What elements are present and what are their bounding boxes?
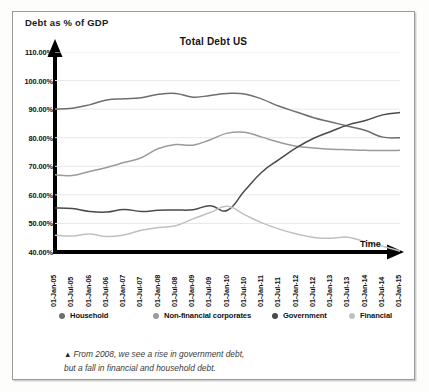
gridlines — [55, 52, 400, 223]
x-tick-label: 01-Jan-09 — [187, 275, 196, 307]
x-tick-label: 01-Jan-10 — [222, 275, 231, 307]
series-line — [55, 113, 400, 213]
x-tick-label: 01-Jul-10 — [239, 277, 248, 307]
x-tick-label: 01-Jul-14 — [377, 277, 386, 307]
plot-area — [55, 52, 400, 252]
x-tick-labels: 01-Jan-0501-Jul-0501-Jan-0601-Jul-0601-J… — [55, 255, 400, 307]
chart-title: Total Debt US — [13, 36, 414, 47]
series-line — [55, 132, 400, 176]
x-tick-label: 01-Jan-08 — [153, 275, 162, 307]
legend-label: Financial — [360, 311, 392, 320]
legend-swatch-icon — [153, 313, 159, 319]
x-tick-label: 01-Jan-12 — [291, 275, 300, 307]
legend-label: Government — [283, 311, 327, 320]
x-axis-label: Time — [360, 239, 381, 249]
y-tick-label: 80.00% — [29, 133, 53, 142]
y-tick-label: 90.00% — [29, 105, 53, 114]
y-tick-label: 60.00% — [29, 190, 53, 199]
figure-caption: ▲From 2008, we see a rise in government … — [64, 348, 394, 374]
legend-item[interactable]: Non-financial corporates — [153, 311, 251, 320]
caption-line-1: From 2008, we see a rise in government d… — [73, 349, 244, 359]
y-tick-labels: 110.00%100.00%90.00%80.00%70.00%60.00%50… — [13, 52, 53, 252]
x-tick-label: 01-Jul-13 — [342, 277, 351, 307]
x-tick-label: 01-Jul-12 — [308, 277, 317, 307]
x-tick-label: 01-Jan-14 — [360, 275, 369, 307]
x-tick-label: 01-Jul-05 — [66, 277, 75, 307]
series-canvas — [55, 52, 400, 252]
figure-panel: Debt as % of GDP Total Debt US 110.00%10… — [12, 11, 415, 380]
x-tick-label: 01-Jul-06 — [101, 277, 110, 307]
legend-swatch-icon — [272, 313, 278, 319]
legend-item[interactable]: Government — [272, 311, 327, 320]
y-tick-label: 50.00% — [29, 219, 53, 228]
data-series-group — [55, 93, 400, 251]
x-tick-label: 01-Jul-08 — [170, 277, 179, 307]
x-tick-label: 01-Jan-11 — [256, 275, 265, 307]
x-tick-label: 01-Jan-15 — [394, 275, 403, 307]
legend-label: Non-financial corporates — [164, 311, 251, 320]
x-tick-label: 01-Jul-07 — [135, 277, 144, 307]
y-tick-label: 40.00% — [29, 248, 53, 257]
x-tick-label: 01-Jan-13 — [325, 275, 334, 307]
legend-item[interactable]: Household — [59, 311, 108, 320]
y-tick-label: 70.00% — [29, 162, 53, 171]
y-tick-label: 100.00% — [25, 76, 53, 85]
y-tick-label: 110.00% — [25, 48, 53, 57]
legend-label: Household — [70, 311, 108, 320]
x-tick-label: 01-Jul-11 — [273, 277, 282, 307]
x-tick-label: 01-Jan-05 — [49, 275, 58, 307]
y-axis-title: Debt as % of GDP — [25, 17, 108, 28]
legend-item[interactable]: Financial — [349, 311, 392, 320]
chart-legend: HouseholdNon-financial corporatesGovernm… — [59, 311, 399, 325]
legend-swatch-icon — [59, 313, 65, 319]
x-tick-label: 01-Jul-09 — [204, 277, 213, 307]
series-line — [55, 206, 400, 251]
series-line — [55, 93, 400, 138]
x-tick-label: 01-Jan-07 — [118, 275, 127, 307]
caption-line-2: but a fall in financial and household de… — [64, 363, 216, 373]
x-tick-label: 01-Jan-06 — [84, 275, 93, 307]
caption-marker-icon: ▲ — [64, 350, 71, 359]
legend-swatch-icon — [349, 313, 355, 319]
